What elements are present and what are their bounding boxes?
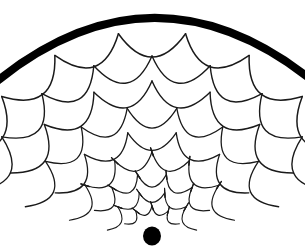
figure-canvas <box>0 0 305 247</box>
focus-dot <box>143 227 161 246</box>
background-plate <box>0 0 305 247</box>
fan-scale-pattern-drawing <box>0 0 305 247</box>
